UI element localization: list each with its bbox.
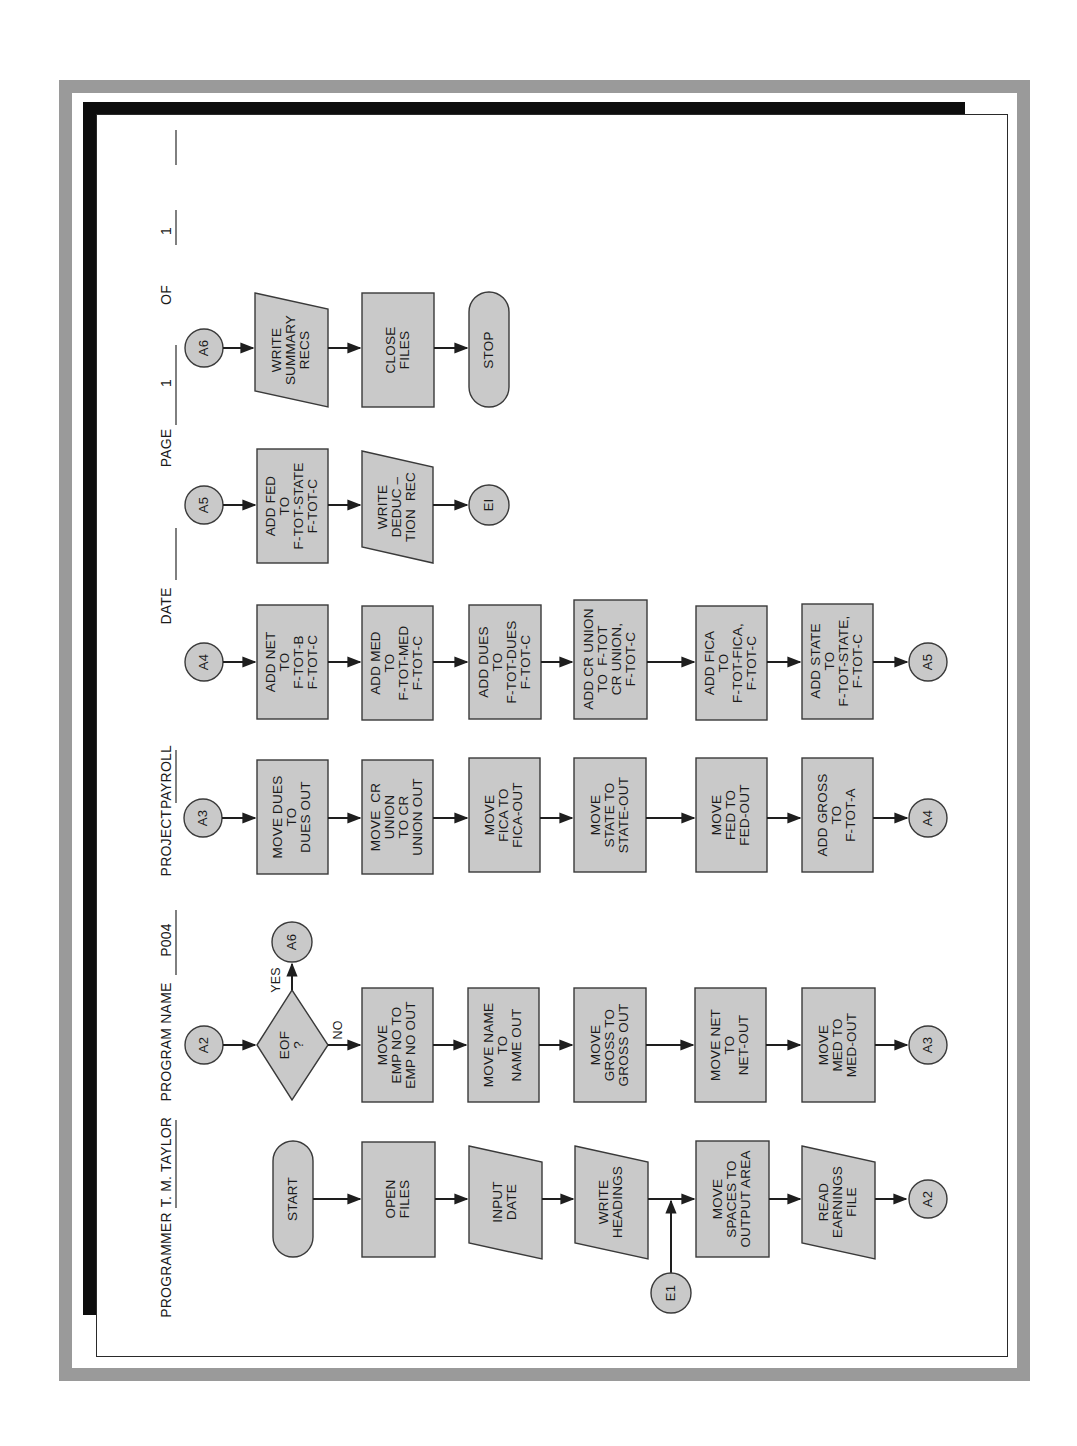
column-5-deduction-record	[185, 449, 509, 563]
column-6-end	[185, 292, 509, 407]
